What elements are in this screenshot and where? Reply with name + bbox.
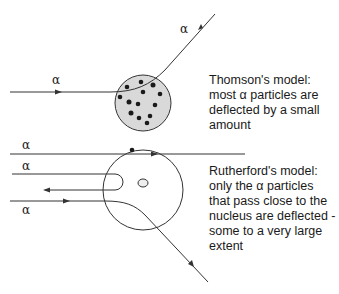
caption-line: that pass close to the bbox=[209, 194, 335, 209]
alpha-label: α bbox=[22, 159, 30, 173]
nucleus bbox=[138, 179, 148, 187]
alpha-path-reflected bbox=[12, 174, 123, 190]
alpha-label: α bbox=[180, 22, 188, 36]
thomson-atom bbox=[115, 75, 171, 131]
arrow-icon bbox=[63, 199, 70, 204]
caption-line: most α particles are bbox=[209, 88, 319, 103]
alpha-label: α bbox=[52, 73, 60, 87]
caption-line: amount bbox=[209, 118, 319, 133]
caption-line: only the α particles bbox=[209, 179, 335, 194]
rutherford-caption: Rutherford's model: only the α particles… bbox=[209, 164, 335, 254]
arrow-icon bbox=[198, 24, 203, 30]
caption-line: extent bbox=[209, 239, 335, 254]
caption-line: nucleus are deflected - bbox=[209, 209, 335, 224]
arrow-icon bbox=[55, 90, 62, 95]
thomson-caption: Thomson's model: most α particles are de… bbox=[209, 73, 319, 133]
arrow-icon bbox=[43, 188, 50, 193]
caption-line: deflected by a small bbox=[209, 103, 319, 118]
alpha-label: α bbox=[22, 138, 30, 152]
alpha-path-deflected bbox=[10, 201, 208, 282]
caption-line: some to a very large bbox=[209, 224, 335, 239]
electron bbox=[130, 148, 135, 153]
caption-line: Rutherford's model: bbox=[209, 164, 335, 179]
caption-line: Thomson's model: bbox=[209, 73, 319, 88]
thomson-model: α α bbox=[10, 14, 215, 131]
alpha-label: α bbox=[22, 203, 30, 217]
